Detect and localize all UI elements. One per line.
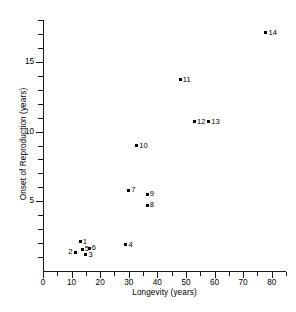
x-axis-tick [143,272,144,276]
x-axis-tick [57,272,58,276]
y-axis-tick [38,229,43,230]
x-axis-tick-label: 60 [200,279,230,287]
y-axis-tick [38,104,43,105]
y-axis-tick [36,132,43,133]
x-axis-tick [286,272,287,276]
x-axis-line [43,271,286,272]
data-point-marker [193,120,196,123]
data-point-label: 13 [211,118,219,126]
data-point-marker [124,243,127,246]
x-axis-title: Longevity (years) [43,288,286,297]
y-axis-tick [38,159,43,160]
y-axis-tick [38,20,43,21]
data-point-marker [264,31,267,34]
data-point-label: 14 [268,29,276,37]
y-axis-tick [36,62,43,63]
data-point-marker [74,251,77,254]
data-point-marker [84,253,87,256]
data-point-label: 12 [197,118,205,126]
data-point-marker [146,193,149,196]
x-axis-tick [172,272,173,276]
y-axis-tick [38,34,43,35]
y-axis-tick [38,146,43,147]
data-point-marker [127,189,130,192]
x-axis-tick-label: 70 [228,279,258,287]
data-point-label: 3 [88,251,92,259]
data-point-label: 11 [183,76,191,84]
x-axis-tick-label: 20 [85,279,115,287]
data-point-label: 8 [150,201,154,209]
y-axis-tick [36,201,43,202]
x-axis-tick-label: 50 [171,279,201,287]
x-axis-tick [114,272,115,276]
x-axis-tick [200,272,201,276]
x-axis-tick-label: 40 [142,279,172,287]
data-point-marker [79,240,82,243]
data-point-label: 9 [150,190,154,198]
data-point-label: 2 [68,248,72,256]
x-axis-tick-label: 10 [57,279,87,287]
y-axis-tick [38,76,43,77]
y-axis-title: Onset of Reproduction (years) [17,18,31,270]
y-axis-tick [38,173,43,174]
data-point-marker [179,78,182,81]
y-axis-line [43,20,44,271]
y-axis-tick-label: 10 [0,128,34,136]
y-axis-tick [38,187,43,188]
data-point-marker [207,120,210,123]
x-axis-tick-label: 30 [114,279,144,287]
data-point-marker [135,144,138,147]
data-point-marker [81,248,84,251]
x-axis-tick-label: 0 [28,279,58,287]
y-axis-tick-label: 5 [0,197,34,205]
data-point-label: 4 [128,241,132,249]
y-axis-tick [38,215,43,216]
y-axis-tick [38,90,43,91]
x-axis-tick-label: 80 [257,279,287,287]
y-axis-tick [38,257,43,258]
data-point-label: 10 [139,142,147,150]
y-axis-tick [38,243,43,244]
y-axis-tick [38,48,43,49]
y-axis-tick [38,118,43,119]
y-axis-tick-label: 15 [0,58,34,66]
x-axis-tick [229,272,230,276]
scatter-chart-figure: Onset of Reproduction (years) Longevity … [0,0,296,312]
data-point-marker [88,247,91,250]
x-axis-tick [257,272,258,276]
x-axis-tick [86,272,87,276]
data-point-marker [146,204,149,207]
data-point-label: 7 [131,186,135,194]
data-point-label: 6 [92,244,96,252]
